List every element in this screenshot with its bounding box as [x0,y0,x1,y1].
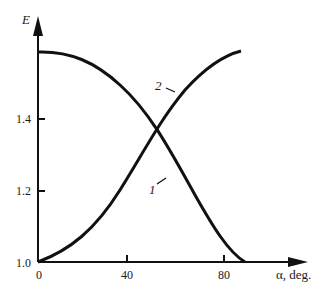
x-tick-label-40: 40 [121,268,133,282]
y-tick-label-1.4: 1.4 [16,112,31,126]
x-axis-arrow-icon [288,257,308,267]
y-tick-label-1.0: 1.0 [16,256,31,270]
chart: 1.4 1.2 1.0 0 40 80 E α, deg. 2 1 [0,0,329,294]
curve-2 [38,51,241,262]
y-axis-title: E [21,12,30,27]
curve-2-leader [166,88,175,92]
curve-2-label: 2 [155,78,162,93]
x-tick-label-0: 0 [36,268,42,282]
y-axis-arrow-icon [33,16,43,36]
y-tick-label-1.2: 1.2 [16,184,31,198]
curve-1-label: 1 [149,182,156,197]
x-tick-label-80: 80 [218,268,230,282]
curve-1-leader [157,178,166,184]
x-axis-title: α, deg. [276,267,311,282]
